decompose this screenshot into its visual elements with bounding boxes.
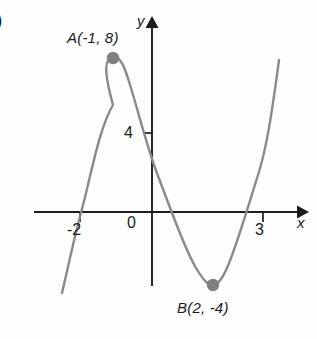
point-label-a: A(-1, 8) xyxy=(67,30,119,45)
y-axis-label: y xyxy=(137,13,145,28)
origin-label: 0 xyxy=(127,215,136,231)
cubic-graph-svg xyxy=(0,0,317,339)
y-axis-arrow-icon xyxy=(146,16,159,28)
point-marker-a xyxy=(107,52,119,64)
x-tick-label-neg2: -2 xyxy=(67,222,81,238)
point-marker-b xyxy=(207,279,219,291)
graph-figure: ) A(-1, 8) B(2, -4) y x 0 -2 3 4 xyxy=(0,0,317,339)
y-tick-label-4: 4 xyxy=(124,125,133,141)
x-axis-label: x xyxy=(297,215,305,230)
x-tick-label-3: 3 xyxy=(255,222,264,238)
item-number-paren: ) xyxy=(0,10,2,29)
cubic-curve xyxy=(62,57,279,293)
point-label-b: B(2, -4) xyxy=(177,300,229,315)
